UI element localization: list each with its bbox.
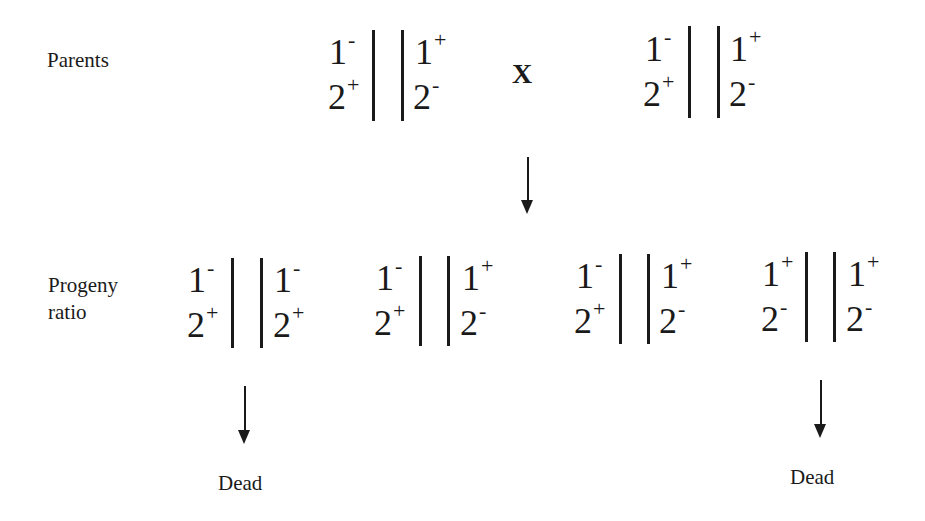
progeny-3-right-top: 1+ bbox=[661, 258, 692, 294]
chromosome-bar bbox=[717, 26, 720, 118]
progeny-2-right-top: 1+ bbox=[462, 260, 493, 296]
cross-symbol: X bbox=[512, 58, 532, 90]
chromosome-bar bbox=[833, 252, 836, 342]
down-arrow-icon bbox=[238, 386, 251, 444]
chromosome-bar bbox=[260, 258, 263, 348]
parent-1-right-bottom: 2- bbox=[413, 79, 439, 115]
dead-label-left: Dead bbox=[218, 471, 262, 495]
parent-2-left-bottom: 2+ bbox=[643, 76, 674, 112]
progeny-4-left-bottom: 2- bbox=[761, 301, 787, 337]
down-arrow-icon bbox=[521, 157, 534, 214]
progeny-label-line2: ratio bbox=[48, 300, 86, 324]
progeny-3-left-top: 1- bbox=[576, 258, 602, 294]
chromosome-bar bbox=[401, 30, 404, 121]
chromosome-bar bbox=[647, 254, 650, 344]
progeny-3-right-bottom: 2- bbox=[659, 303, 685, 339]
chromosome-bar bbox=[231, 258, 234, 348]
progeny-2-left-bottom: 2+ bbox=[374, 305, 405, 341]
progeny-label-line1: Progeny bbox=[48, 273, 118, 297]
progeny-4-right-top: 1+ bbox=[848, 256, 879, 292]
progeny-2-right-bottom: 2- bbox=[460, 305, 486, 341]
progeny-1-left-top: 1- bbox=[188, 262, 214, 298]
down-arrow-icon bbox=[814, 380, 827, 438]
chromosome-bar bbox=[619, 254, 622, 344]
chromosome-bar bbox=[688, 26, 691, 118]
parent-1-left-bottom: 2+ bbox=[328, 79, 359, 115]
chromosome-bar bbox=[805, 252, 808, 342]
progeny-3-left-bottom: 2+ bbox=[574, 303, 605, 339]
progeny-1-left-bottom: 2+ bbox=[187, 307, 218, 343]
chromosome-bar bbox=[372, 30, 375, 121]
parent-2-right-top: 1+ bbox=[730, 31, 761, 67]
parent-2-right-bottom: 2- bbox=[729, 76, 755, 112]
progeny-4-left-top: 1+ bbox=[762, 256, 793, 292]
parents-label: Parents bbox=[47, 48, 109, 72]
progeny-1-right-bottom: 2+ bbox=[273, 307, 304, 343]
progeny-1-right-top: 1- bbox=[274, 262, 300, 298]
parent-1-right-top: 1+ bbox=[415, 34, 446, 70]
dead-label-right: Dead bbox=[790, 465, 834, 489]
parent-1-left-top: 1- bbox=[329, 34, 355, 70]
progeny-2-left-top: 1- bbox=[376, 260, 402, 296]
progeny-4-right-bottom: 2- bbox=[846, 301, 872, 337]
chromosome-bar bbox=[419, 256, 422, 346]
chromosome-bar bbox=[447, 256, 450, 346]
parent-2-left-top: 1- bbox=[645, 31, 671, 67]
